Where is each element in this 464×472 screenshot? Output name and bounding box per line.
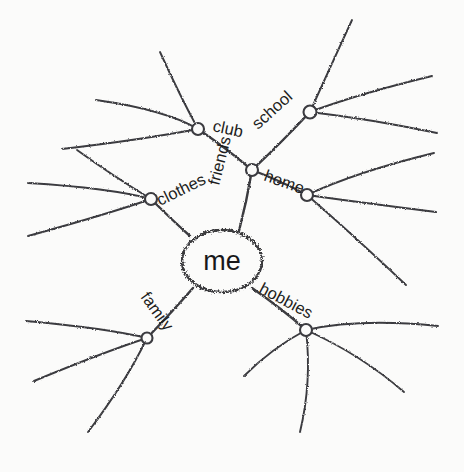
- leaf-branch-hobbies: [300, 330, 308, 432]
- node-label-friends: friends: [204, 134, 233, 186]
- leaf-branch-club: [96, 100, 198, 129]
- leaf-branch-family: [88, 338, 147, 432]
- leaf-branch-home: [307, 195, 406, 285]
- node-ring-family[interactable]: [142, 333, 153, 344]
- mind-map-canvas: me clothesfriendsfamilyhobbiesclubschool…: [0, 0, 464, 472]
- leaf-branch-school: [310, 112, 437, 133]
- center-node-label: me: [203, 246, 241, 276]
- branch-me-to-friends: [239, 170, 252, 231]
- node-ring-club[interactable]: [192, 123, 204, 135]
- leaf-branch-family: [26, 321, 147, 338]
- leaf-branch-home: [307, 153, 434, 195]
- mind-map-svg: me clothesfriendsfamilyhobbiesclubschool…: [0, 0, 464, 472]
- leaf-branch-club: [160, 52, 198, 129]
- leaf-branch-hobbies: [306, 330, 404, 392]
- node-ring-hobbies[interactable]: [300, 324, 312, 336]
- leaf-branch-hobbies: [244, 330, 306, 376]
- leaf-branch-layer: [26, 20, 438, 432]
- leaf-branch-family: [34, 338, 147, 381]
- node-label-school: school: [248, 87, 295, 132]
- leaf-branch-school: [310, 20, 352, 112]
- node-label-hobbies: hobbies: [257, 279, 316, 322]
- leaf-branch-home: [307, 195, 436, 212]
- node-ring-friends[interactable]: [246, 164, 258, 176]
- leaf-branch-hobbies: [306, 323, 438, 330]
- leaf-branch-club: [62, 129, 198, 149]
- branch-me-to-clothes: [151, 199, 190, 236]
- leaf-branch-school: [310, 76, 432, 112]
- node-label-clothes: clothes: [153, 170, 208, 209]
- leaf-branch-clothes: [28, 183, 151, 199]
- node-ring-school[interactable]: [304, 106, 317, 119]
- node-label-home: home: [262, 166, 307, 197]
- leaf-branch-clothes: [28, 199, 151, 236]
